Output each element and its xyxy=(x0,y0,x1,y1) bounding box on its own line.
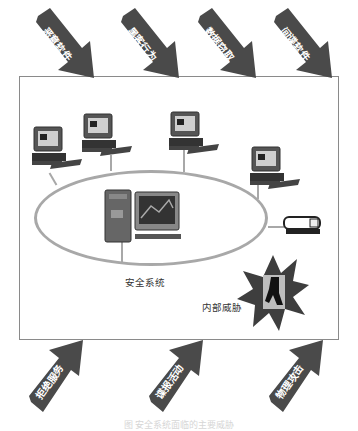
workstation-icon xyxy=(248,145,304,197)
workstation-icon xyxy=(167,110,223,162)
threat-arrow-espionage: 谍报活动 xyxy=(145,340,205,410)
internal-threat-starburst-icon xyxy=(235,253,310,333)
threat-arrow-hacking: 黑客行为 xyxy=(115,8,175,78)
workstation-icon xyxy=(30,125,86,177)
threat-arrow-denial-of-service: 拒绝服务 xyxy=(25,340,85,410)
figure-caption: 图 安全系统面临的主要威胁 xyxy=(0,418,358,431)
threat-arrow-spyware: 间谍软件 xyxy=(268,8,328,78)
security-system-label: 安全系统 xyxy=(125,275,165,289)
internal-threat-label: 内部威胁 xyxy=(202,300,242,314)
workstation-icon xyxy=(80,112,136,164)
server-icon xyxy=(103,188,183,248)
threat-arrow-physical-attack: 物理攻击 xyxy=(265,340,325,410)
printer-icon xyxy=(282,213,324,237)
threat-arrow-data-theft: 数据窃取 xyxy=(192,8,252,78)
threat-arrow-malware: 恶意软件 xyxy=(30,8,90,78)
